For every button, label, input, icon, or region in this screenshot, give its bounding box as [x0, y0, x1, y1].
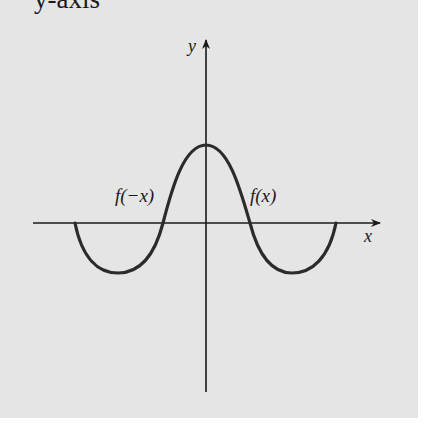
curve-label-f-neg-x: f(−x) [115, 185, 154, 207]
y-axis-label: y [186, 36, 196, 56]
figure-panel: y-axis y x f(−x) f(x) [0, 0, 418, 418]
x-axis-label: x [363, 226, 372, 246]
even-function-graph: y x f(−x) f(x) [0, 0, 418, 418]
curve-label-f-x: f(x) [250, 185, 276, 207]
